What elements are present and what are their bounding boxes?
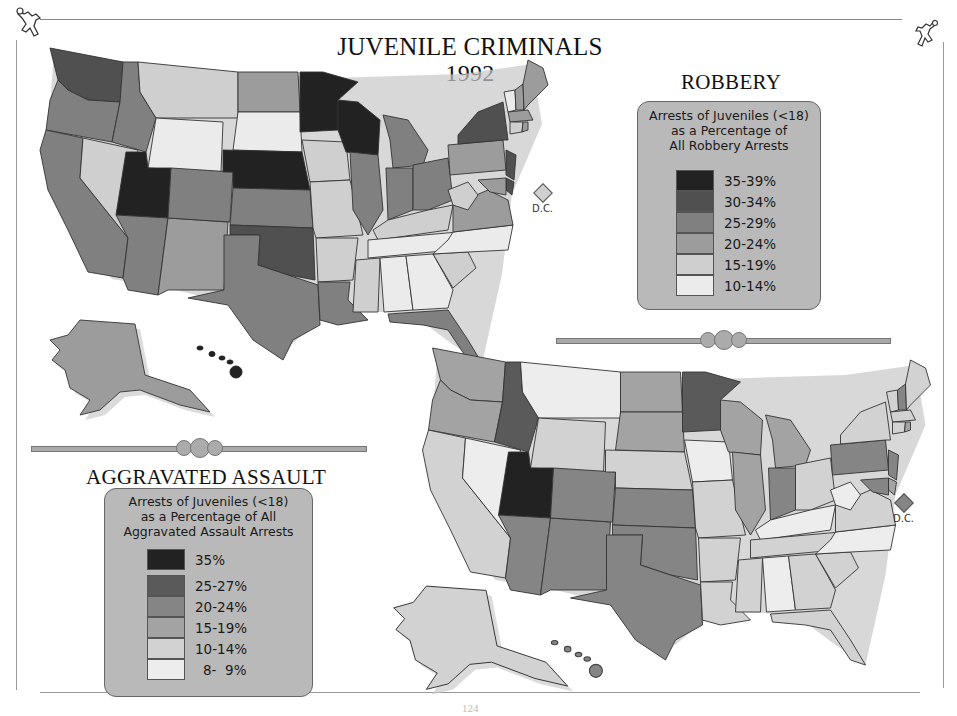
- state-CO: [168, 168, 233, 222]
- state-AR: [699, 538, 741, 582]
- assault-legend-header: Arrests of Juveniles (<18) as a Percenta…: [105, 494, 312, 539]
- legend-item: 35%: [147, 549, 247, 570]
- state-CO: [551, 468, 616, 522]
- running-figure-icon-right: [910, 18, 940, 48]
- state-NJ: [506, 150, 516, 180]
- legend-item: 25-27%: [147, 575, 247, 596]
- state-CT: [510, 122, 523, 134]
- state-MA: [891, 410, 916, 422]
- state-MS: [353, 258, 380, 312]
- legend-swatch: [147, 549, 185, 570]
- state-MA: [508, 110, 533, 122]
- legend-item: 30-34%: [676, 191, 776, 212]
- state-NJ: [889, 450, 899, 480]
- state-AR: [316, 238, 358, 282]
- assault-section-title: AGGRAVATED ASSAULT: [86, 465, 326, 490]
- state-PA: [448, 140, 506, 175]
- state-HI: [197, 346, 242, 378]
- legend-swatch: [676, 191, 714, 212]
- legend-swatch: [676, 254, 714, 275]
- frame-right-line: [943, 42, 944, 688]
- legend-item: 10-14%: [676, 275, 776, 296]
- assault-dc-marker: D.C.: [893, 496, 914, 524]
- legend-item: 15-19%: [676, 254, 776, 275]
- robbery-dc-label: D.C.: [532, 203, 553, 214]
- assault-legend: Arrests of Juveniles (<18) as a Percenta…: [104, 488, 313, 697]
- divider-ornament: [207, 440, 223, 456]
- legend-swatch: [147, 617, 185, 638]
- robbery-legend: Arrests of Juveniles (<18) as a Percenta…: [637, 101, 821, 310]
- page-number: 124: [462, 702, 479, 714]
- frame-left-line: [16, 40, 17, 690]
- state-AK: [394, 586, 568, 689]
- state-NM: [158, 218, 228, 295]
- legend-swatch: [147, 596, 185, 617]
- state-SD: [233, 112, 302, 152]
- state-SD: [616, 412, 685, 452]
- state-CT: [893, 422, 906, 434]
- state-MT: [521, 362, 621, 418]
- state-ND: [238, 72, 300, 112]
- dc-diamond-icon: [533, 183, 553, 203]
- state-OH: [413, 158, 453, 210]
- dc-diamond-icon: [894, 493, 914, 513]
- state-RI: [905, 422, 911, 432]
- legend-swatch: [147, 659, 185, 680]
- legend-item: 20-24%: [147, 596, 247, 617]
- legend-swatch: [676, 170, 714, 191]
- state-RI: [522, 122, 528, 132]
- legend-swatch: [676, 212, 714, 233]
- state-OH: [796, 458, 836, 510]
- legend-item: 35-39%: [676, 170, 776, 191]
- legend-swatch: [676, 275, 714, 296]
- legend-item: 10-14%: [147, 638, 247, 659]
- state-MS: [736, 558, 763, 612]
- state-AK: [50, 320, 210, 415]
- state-ND: [621, 372, 683, 412]
- state-PA: [831, 440, 889, 475]
- legend-swatch: [676, 233, 714, 254]
- state-NE: [606, 450, 693, 490]
- state-MT: [138, 62, 238, 118]
- state-KS: [230, 188, 313, 228]
- state-HI: [551, 640, 602, 677]
- state-IA: [302, 140, 350, 182]
- assault-alaska-hawaii: [372, 570, 622, 700]
- robbery-legend-items: 35-39% 30-34% 25-29% 20-24% 15-19% 10-14…: [676, 170, 776, 296]
- state-KS: [613, 488, 696, 528]
- frame-top-line: [40, 19, 902, 20]
- legend-item: 20-24%: [676, 233, 776, 254]
- state-IA: [685, 440, 733, 482]
- robbery-dc-marker: D.C.: [532, 186, 553, 214]
- legend-swatch: [147, 575, 185, 596]
- robbery-section-title: ROBBERY: [681, 70, 781, 95]
- assault-dc-label: D.C.: [893, 513, 914, 524]
- legend-item: 8- 9%: [147, 659, 247, 680]
- robbery-legend-header: Arrests of Juveniles (<18) as a Percenta…: [638, 108, 820, 153]
- legend-swatch: [147, 638, 185, 659]
- legend-item: 15-19%: [147, 617, 247, 638]
- assault-legend-items: 35% 25-27% 20-24% 15-19% 10-14% 8- 9%: [147, 549, 247, 680]
- legend-item: 25-29%: [676, 212, 776, 233]
- running-figure-icon-left: [12, 6, 46, 40]
- robbery-alaska-hawaii: [30, 310, 260, 420]
- state-WY: [148, 118, 223, 172]
- state-NE: [223, 150, 310, 190]
- state-WY: [531, 418, 606, 472]
